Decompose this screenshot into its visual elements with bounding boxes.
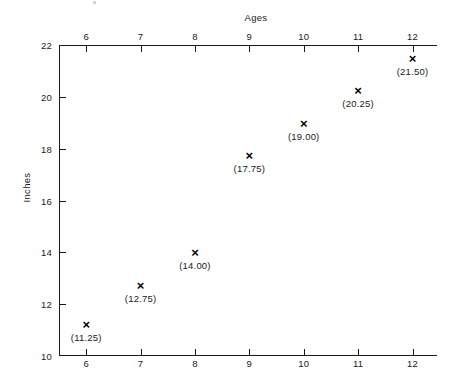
- x-tick-label-bottom: 7: [138, 358, 143, 369]
- y-tick-label: 18: [41, 143, 52, 154]
- x-tick-label-top: 8: [192, 31, 197, 42]
- y-tick-label: 20: [41, 91, 52, 102]
- x-tick-top: [86, 46, 87, 52]
- data-point-marker-icon: ×: [246, 149, 254, 162]
- x-tick-top: [195, 46, 196, 52]
- scatter-chart: Ages Inches 6789101112 6789101112 101214…: [0, 0, 452, 382]
- x-tick-label-top: 11: [353, 31, 363, 42]
- y-tick: [60, 304, 66, 305]
- x-tick-bottom: [86, 349, 87, 355]
- x-axis-bottom-line: [59, 355, 437, 356]
- x-tick-bottom: [195, 349, 196, 355]
- y-tick-label: 14: [41, 247, 52, 258]
- y-tick-label: 10: [41, 351, 52, 362]
- data-point-marker-icon: ×: [354, 84, 362, 97]
- data-point-label: (17.75): [234, 163, 266, 174]
- x-tick-label-top: 9: [247, 31, 252, 42]
- y-tick: [60, 149, 66, 150]
- x-tick-label-bottom: 10: [298, 358, 309, 369]
- chart-title-text: Ages: [245, 12, 268, 23]
- data-point-label: (20.25): [342, 98, 374, 109]
- x-tick-label-top: 12: [407, 31, 418, 42]
- y-tick: [60, 97, 66, 98]
- x-tick-label-top: 10: [298, 31, 309, 42]
- x-tick-bottom: [358, 349, 359, 355]
- data-point-marker-icon: ×: [137, 278, 145, 291]
- data-point-label: (11.25): [71, 332, 102, 343]
- data-point-label: (21.50): [397, 66, 429, 77]
- y-tick-label: 22: [41, 40, 52, 51]
- x-tick-bottom: [141, 349, 142, 355]
- y-tick: [60, 201, 66, 202]
- data-point-label: (12.75): [125, 293, 157, 304]
- x-tick-label-bottom: 12: [407, 358, 418, 369]
- x-tick-bottom: [249, 349, 250, 355]
- x-tick-label-bottom: 11: [353, 358, 363, 369]
- data-point-marker-icon: ×: [82, 317, 90, 330]
- data-point-label: (19.00): [288, 131, 320, 142]
- x-tick-label-top: 7: [138, 31, 143, 42]
- plot-area: 6789101112 6789101112 10121416182022 ×(1…: [59, 45, 437, 356]
- y-tick-label: 16: [41, 195, 52, 206]
- x-tick-top: [304, 46, 305, 52]
- x-tick-bottom: [413, 349, 414, 355]
- x-tick-top: [249, 46, 250, 52]
- y-tick-label: 12: [41, 299, 52, 310]
- x-tick-bottom: [304, 349, 305, 355]
- x-tick-top: [358, 46, 359, 52]
- chart-title: Ages: [0, 12, 452, 23]
- data-point-marker-icon: ×: [300, 116, 308, 129]
- x-axis-top-line: [59, 45, 437, 46]
- x-tick-label-bottom: 8: [192, 358, 197, 369]
- x-tick-label-bottom: 9: [247, 358, 252, 369]
- x-tick-label-top: 6: [83, 31, 88, 42]
- scan-artifact: [93, 1, 96, 4]
- x-tick-top: [141, 46, 142, 52]
- data-point-label: (14.00): [179, 260, 211, 271]
- data-point-marker-icon: ×: [409, 51, 417, 64]
- y-axis-label: Inches: [21, 166, 32, 210]
- data-point-marker-icon: ×: [191, 246, 199, 259]
- y-tick: [60, 252, 66, 253]
- x-tick-label-bottom: 6: [83, 358, 88, 369]
